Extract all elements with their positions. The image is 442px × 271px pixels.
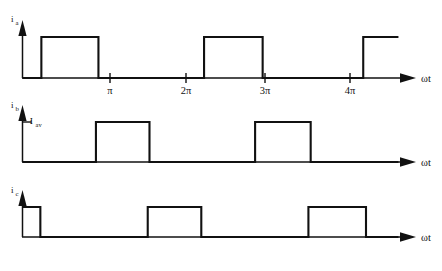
x-tick-label-4pi: 4π — [345, 85, 356, 96]
y-axis-arrow-ic — [18, 190, 26, 206]
x-axis-label-ic: ωt — [421, 232, 431, 243]
y-axis-arrow-ia — [18, 20, 26, 36]
y-axis-label-ib-subscript: b — [16, 105, 20, 112]
y-axis-arrow-ib — [18, 105, 26, 121]
plot-ib: i b i I av ωt — [11, 100, 431, 168]
iav-label: I — [30, 116, 33, 126]
y-axis-label-ia-subscript: a — [16, 19, 19, 26]
x-tick-label-2pi: 2π — [181, 85, 192, 96]
y-axis-label-ic-subscript: c — [16, 190, 19, 197]
waveform-trace-ic — [23, 207, 399, 237]
x-axis-label-ib: ωt — [421, 157, 431, 168]
iav-label-subscript: av — [36, 121, 43, 128]
waveform-trace-ia — [23, 37, 399, 78]
x-axis-label-ia: ωt — [421, 73, 431, 84]
plot-ic: i c ωt — [11, 185, 431, 243]
figure-canvas: i a π 2π 3π 4π ωt i b i — [0, 0, 442, 271]
x-tick-label-3pi: 3π — [260, 85, 271, 96]
y-axis-label-ic: i — [11, 185, 14, 195]
waveform-trace-ib — [23, 122, 399, 162]
y-axis-label-ia: i — [11, 14, 14, 24]
x-axis-arrow-ia — [400, 73, 416, 83]
plot-ia: i a π 2π 3π 4π ωt — [11, 14, 431, 96]
x-axis-arrow-ic — [400, 232, 416, 242]
waveform-figure: i a π 2π 3π 4π ωt i b i — [0, 0, 442, 271]
x-axis-arrow-ib — [400, 157, 416, 167]
x-tick-label-pi: π — [107, 85, 113, 96]
y-axis-label-ib: i — [11, 100, 14, 110]
